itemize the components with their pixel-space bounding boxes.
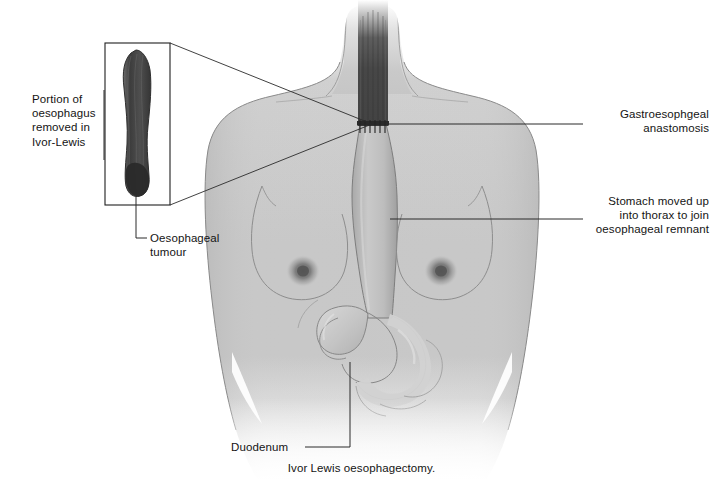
anatomy-illustration — [0, 0, 723, 484]
figure-root: Portion of oesophagus removed in Ivor-Le… — [0, 0, 723, 484]
label-oesophageal-tumour: Oesophageal tumour — [150, 231, 242, 259]
label-stomach-moved-up: Stomach moved up into thorax to join oes… — [575, 194, 709, 237]
label-duodenum: Duodenum — [231, 440, 311, 454]
label-portion-removed: Portion of oesophagus removed in Ivor-Le… — [32, 92, 118, 149]
figure-caption: Ivor Lewis oesophagectomy. — [0, 462, 723, 474]
label-gastroesophageal-anastomosis: Gastroesophgeal anastomosis — [563, 107, 709, 135]
oesophageal-remnant — [358, 0, 388, 126]
